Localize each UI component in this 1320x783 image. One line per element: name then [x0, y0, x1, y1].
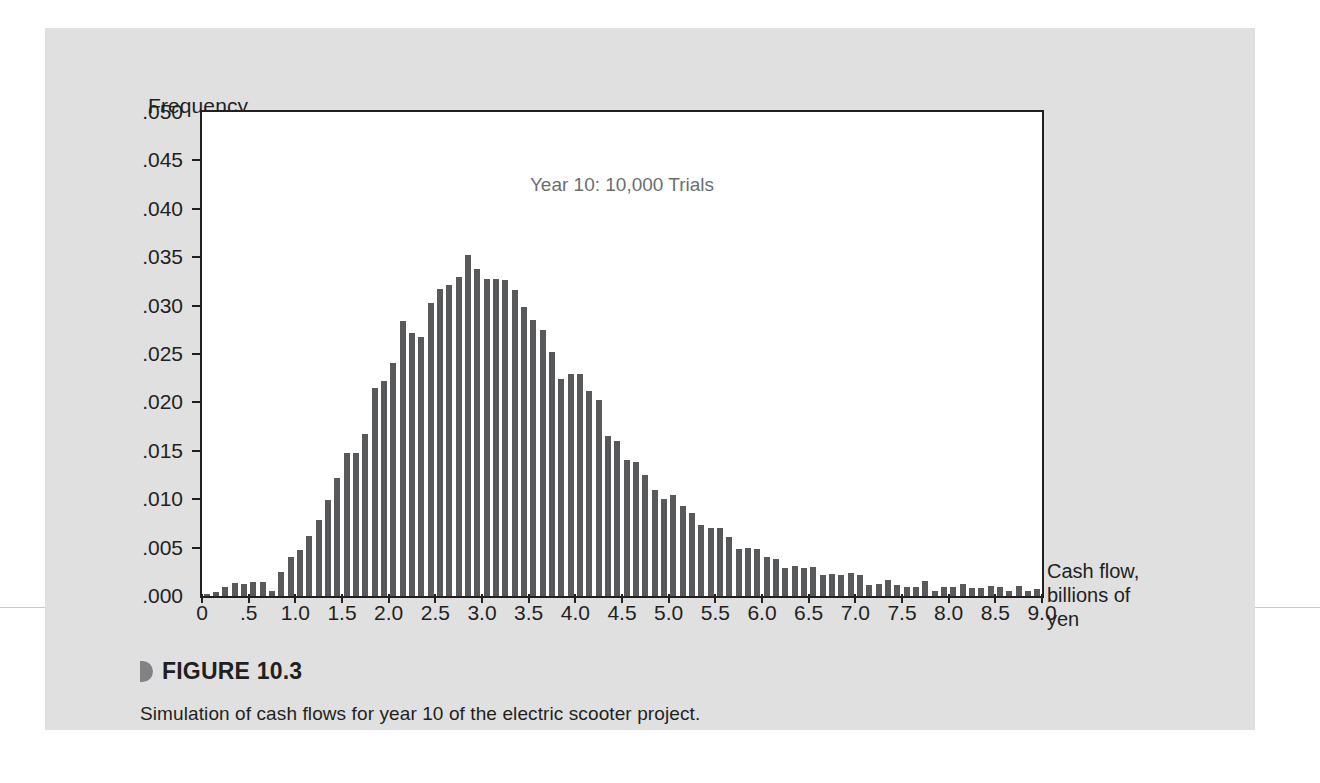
x-axis-tick-label: 1.0 — [281, 601, 310, 625]
histogram-bar — [810, 567, 816, 596]
histogram-bar — [997, 587, 1003, 596]
y-axis-tick-label: .025 — [142, 343, 183, 364]
histogram-bar — [586, 391, 592, 596]
histogram-bar — [409, 333, 415, 596]
histogram-bar — [446, 285, 452, 596]
histogram-bar — [932, 591, 938, 596]
histogram-bar — [978, 588, 984, 596]
histogram-bar — [904, 587, 910, 596]
histogram-bar — [474, 269, 480, 596]
x-axis-tick-label: 0 — [196, 601, 208, 625]
histogram-bar — [680, 506, 686, 596]
x-axis-title-line: billions of — [1047, 583, 1139, 607]
histogram-bar — [838, 575, 844, 596]
histogram-bar — [418, 337, 424, 596]
histogram-bar — [633, 462, 639, 596]
histogram-bar — [661, 499, 667, 596]
histogram-bar — [624, 460, 630, 596]
x-axis-tick-label: 4.0 — [561, 601, 590, 625]
histogram-bar — [969, 588, 975, 596]
y-axis-tick-label: .015 — [142, 440, 183, 461]
histogram-bar — [726, 537, 732, 596]
histogram-bar — [530, 320, 536, 596]
histogram-bar — [866, 585, 872, 596]
y-axis-tick-label: .000 — [142, 585, 183, 606]
histogram-bar — [913, 587, 919, 596]
y-axis-tick-label: .050 — [142, 101, 183, 122]
x-axis-tick-label: 2.0 — [374, 601, 403, 625]
histogram-bar — [745, 548, 751, 596]
histogram-bar — [372, 388, 378, 596]
histogram-bar — [596, 400, 602, 596]
histogram-bar — [362, 434, 368, 596]
triangle-bullet-icon — [140, 661, 153, 682]
x-axis-tick-label: 8.5 — [981, 601, 1010, 625]
histogram-bar — [1025, 591, 1031, 596]
y-axis-tick-label: .010 — [142, 488, 183, 509]
histogram-bar — [493, 279, 499, 596]
histogram-bar — [922, 581, 928, 596]
histogram-bar — [820, 575, 826, 596]
x-axis-title-line: yen — [1047, 607, 1139, 631]
histogram-bar — [652, 490, 658, 596]
y-axis-tick-label: .005 — [142, 537, 183, 558]
x-axis-tick-label: 7.5 — [887, 601, 916, 625]
histogram-bar — [642, 475, 648, 596]
histogram-bar — [577, 374, 583, 596]
histogram-bar — [502, 280, 508, 596]
histogram-bar — [437, 289, 443, 596]
x-axis-tick-label: 6.0 — [747, 601, 776, 625]
histogram-bars — [202, 112, 1042, 596]
histogram-bar — [876, 584, 882, 596]
y-axis-tick-label: .040 — [142, 198, 183, 219]
histogram-bar — [390, 363, 396, 596]
histogram-bar — [941, 587, 947, 596]
histogram-bar — [241, 584, 247, 596]
x-axis-tick-label: 6.5 — [794, 601, 823, 625]
histogram-bar — [456, 277, 462, 596]
histogram-bar — [512, 290, 518, 596]
y-axis-tick-label: .035 — [142, 246, 183, 267]
histogram-bar — [689, 513, 695, 596]
histogram-bar — [670, 495, 676, 596]
histogram-bar — [773, 559, 779, 596]
histogram-bar — [204, 594, 210, 596]
figure-panel: Frequency .050.045.040.035.030.025.020.0… — [45, 28, 1255, 730]
histogram-bar — [465, 255, 471, 596]
histogram-bar — [250, 582, 256, 596]
histogram-bar — [521, 307, 527, 596]
chart-area: Frequency .050.045.040.035.030.025.020.0… — [45, 28, 1255, 628]
histogram-bar — [213, 592, 219, 596]
x-axis-tick-label: 4.5 — [607, 601, 636, 625]
histogram-bar — [325, 500, 331, 596]
histogram-bar — [288, 557, 294, 596]
histogram-bar — [988, 586, 994, 596]
histogram-bar — [428, 303, 434, 596]
figure-caption: Simulation of cash flows for year 10 of … — [140, 703, 1140, 725]
x-axis-tick-label: 5.5 — [701, 601, 730, 625]
histogram-bar — [950, 587, 956, 596]
histogram-bar — [568, 374, 574, 596]
histogram-bar — [764, 557, 770, 596]
histogram-bar — [960, 584, 966, 596]
histogram-bar — [708, 528, 714, 596]
x-axis-tick-label: 3.0 — [467, 601, 496, 625]
histogram-bar — [549, 352, 555, 596]
x-axis-tick-label: 1.5 — [327, 601, 356, 625]
histogram-bar — [829, 574, 835, 596]
y-axis-tick-label: .020 — [142, 391, 183, 412]
histogram-bar — [400, 321, 406, 596]
plot-inner: Year 10: 10,000 Trials — [202, 112, 1042, 596]
histogram-bar — [278, 572, 284, 596]
histogram-bar — [754, 549, 760, 596]
figure-label: FIGURE 10.3 — [162, 658, 302, 685]
histogram-bar — [558, 379, 564, 596]
histogram-bar — [1034, 589, 1040, 596]
histogram-bar — [269, 591, 275, 596]
histogram-bar — [717, 528, 723, 596]
histogram-bar — [1006, 591, 1012, 596]
histogram-bar — [222, 587, 228, 596]
histogram-bar — [316, 520, 322, 596]
histogram-bar — [484, 279, 490, 596]
x-axis-tick-label: .5 — [240, 601, 258, 625]
